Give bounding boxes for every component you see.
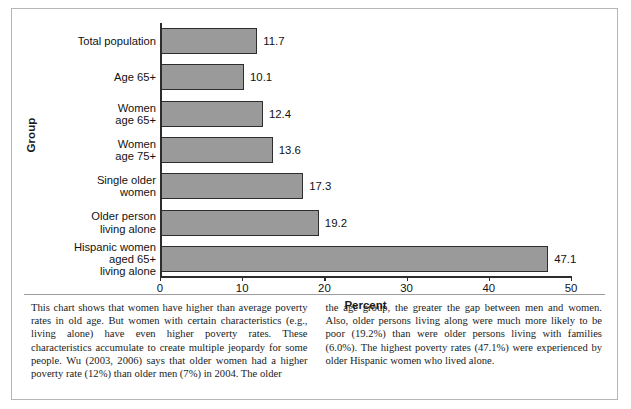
bar-row: 11.7 [161, 28, 572, 54]
bar-value-label: 19.2 [325, 217, 347, 229]
bar-value-label: 11.7 [263, 35, 284, 47]
figure-container: Group Total populationAge 65+Women age 6… [11, 8, 618, 400]
bar [161, 101, 263, 127]
x-axis-tick [571, 276, 572, 281]
x-axis-tick-label: 50 [565, 282, 578, 294]
caption-right-column: the age group, the greater the gap betwe… [326, 301, 603, 380]
bar-row: 47.1 [161, 246, 572, 272]
bar [161, 28, 257, 54]
x-axis-tick [489, 276, 490, 281]
caption-left-column: This chart shows that women have higher … [31, 301, 308, 380]
x-axis-tick-label: 20 [318, 282, 331, 294]
x-axis-tick-label: 40 [482, 282, 495, 294]
bar [161, 210, 319, 236]
bar-value-label: 13.6 [279, 144, 301, 156]
bar-row: 17.3 [161, 173, 572, 199]
category-label: Older person living alone [91, 210, 156, 234]
x-axis-tick [324, 276, 325, 281]
category-label: Single older women [97, 174, 156, 198]
category-label: Age 65+ [114, 71, 156, 83]
category-label: Women age 75+ [115, 138, 156, 162]
y-axis-title: Group [25, 105, 37, 165]
x-axis-tick [407, 276, 408, 281]
category-label: Total population [78, 35, 156, 47]
bar-chart: Group Total populationAge 65+Women age 6… [12, 9, 617, 293]
bar-value-label: 12.4 [269, 108, 291, 120]
bar-row: 19.2 [161, 210, 572, 236]
caption-block: This chart shows that women have higher … [31, 301, 602, 380]
x-axis-tick-label: 30 [400, 282, 413, 294]
category-label: Women age 65+ [115, 102, 156, 126]
x-axis-tick-label: 0 [157, 282, 163, 294]
bar-row: 12.4 [161, 101, 572, 127]
x-axis-line [160, 276, 571, 278]
bar [161, 173, 303, 199]
bar [161, 246, 548, 272]
bar-value-label: 10.1 [250, 71, 272, 83]
x-axis-tick-label: 10 [236, 282, 249, 294]
bar [161, 137, 273, 163]
plot-area: 11.710.112.413.617.319.247.1 01020304050… [160, 23, 572, 277]
bar-row: 13.6 [161, 137, 572, 163]
bar-value-label: 47.1 [554, 253, 576, 265]
category-label-column: Total populationAge 65+Women age 65+Wome… [46, 23, 156, 277]
category-label: Hispanic women aged 65+ living alone [74, 241, 156, 278]
bar-row: 10.1 [161, 64, 572, 90]
x-axis-tick [160, 276, 161, 281]
bar [161, 64, 244, 90]
caption-divider [24, 294, 605, 295]
x-axis-tick [242, 276, 243, 281]
bar-value-label: 17.3 [309, 180, 331, 192]
